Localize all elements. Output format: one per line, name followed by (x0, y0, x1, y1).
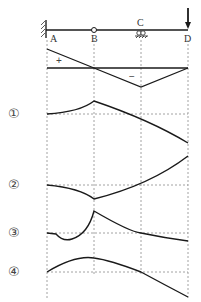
option-3-curve (47, 211, 188, 241)
label-a: A (50, 33, 58, 44)
label-c: C (137, 17, 144, 28)
fixed-support-icon (41, 20, 46, 38)
option-3-label[interactable]: ③ (8, 225, 20, 240)
option-2-curve (47, 156, 188, 199)
option-1-label[interactable]: ① (8, 106, 20, 121)
roller-support-icon (135, 31, 148, 38)
label-b: B (91, 33, 98, 44)
option-4-label[interactable]: ④ (8, 264, 20, 279)
influence-line (47, 49, 188, 87)
option-4-curve (47, 258, 188, 297)
beam: A B C D (41, 8, 191, 44)
option-1-curve (47, 101, 188, 143)
hinge-icon (92, 28, 97, 33)
option-2-label[interactable]: ② (8, 177, 20, 192)
label-d: D (184, 33, 191, 44)
load-arrow-icon (185, 8, 191, 29)
negative-sign: − (129, 71, 135, 82)
positive-sign: + (56, 55, 62, 66)
diagram-canvas: A B C D + − ① ② ③ ④ (0, 0, 201, 302)
